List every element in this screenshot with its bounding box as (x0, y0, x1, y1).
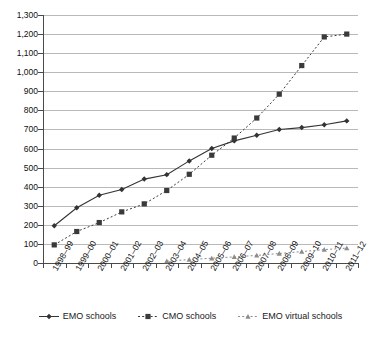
legend-item: EMO virtual schools (238, 312, 342, 321)
x-axis-tick-mark (246, 263, 247, 268)
x-axis-tick-mark (358, 263, 359, 268)
y-axis-tick-label: 300 (24, 202, 38, 211)
legend-swatch-triangle-icon (238, 312, 258, 321)
x-axis-tick-mark (201, 263, 202, 268)
x-axis-tick-mark (133, 263, 134, 268)
x-axis-tick-mark (291, 263, 292, 268)
gridline (43, 15, 358, 16)
legend-item: CMO schools (138, 312, 216, 321)
gridline (43, 129, 358, 130)
y-axis-tick-label: 500 (24, 163, 38, 172)
legend-label: CMO schools (162, 312, 216, 321)
y-axis-tick-label: 1,100 (17, 49, 38, 58)
y-axis-tick-label: 200 (24, 221, 38, 230)
x-axis-tick-mark (336, 263, 337, 268)
legend-label: EMO virtual schools (262, 312, 342, 321)
y-axis-tick-label: 400 (24, 182, 38, 191)
y-axis-tick-label: 1,300 (17, 11, 38, 20)
y-axis-tick-label: 1,200 (17, 30, 38, 39)
y-axis-tick-label: 900 (24, 87, 38, 96)
x-axis-tick-mark (178, 263, 179, 268)
legend-swatch-diamond-icon (39, 312, 59, 321)
x-axis-tick-mark (223, 263, 224, 268)
y-axis-tick-label: 700 (24, 125, 38, 134)
x-axis-tick-mark (66, 263, 67, 268)
y-axis-tick-label: 100 (24, 240, 38, 249)
x-axis-tick-mark (313, 263, 314, 268)
x-axis-tick-mark (43, 263, 44, 268)
chart-container: 01002003004005006007008009001,0001,1001,… (0, 0, 381, 337)
gridline (43, 225, 358, 226)
y-axis-labels: 01002003004005006007008009001,0001,1001,… (0, 0, 38, 337)
gridline (43, 72, 358, 73)
gridline (43, 34, 358, 35)
y-axis-line (43, 15, 44, 263)
legend-item: EMO schools (39, 312, 117, 321)
plot-area (43, 15, 358, 263)
x-axis-tick-mark (88, 263, 89, 268)
gridline (43, 53, 358, 54)
gridline (43, 149, 358, 150)
y-axis-tick-label: 600 (24, 144, 38, 153)
x-axis-tick-mark (156, 263, 157, 268)
y-axis-tick-label: 800 (24, 106, 38, 115)
gridline (43, 91, 358, 92)
legend-swatch-square-icon (138, 312, 158, 321)
gridline (43, 168, 358, 169)
gridline (43, 187, 358, 188)
x-axis-tick-mark (111, 263, 112, 268)
gridline (43, 206, 358, 207)
x-axis-tick-mark (268, 263, 269, 268)
gridline (43, 110, 358, 111)
legend-label: EMO schools (63, 312, 117, 321)
chart-legend: EMO schoolsCMO schoolsEMO virtual school… (0, 312, 381, 321)
y-axis-tick-label: 1,000 (17, 68, 38, 77)
